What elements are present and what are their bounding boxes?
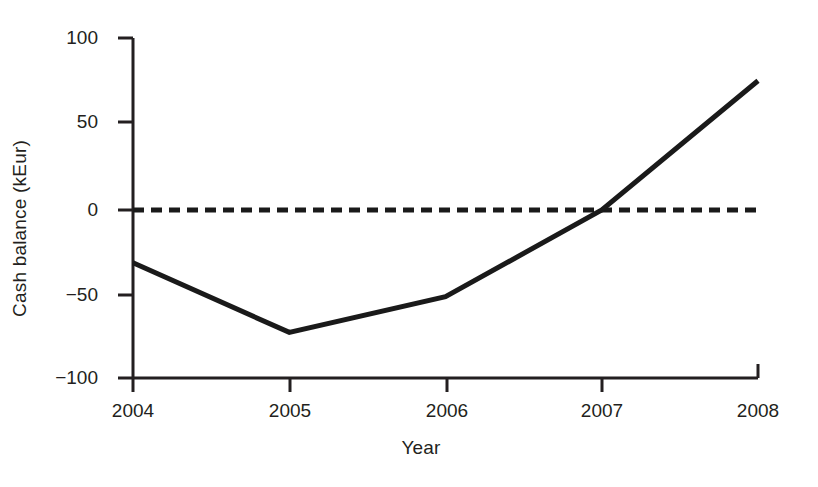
cash-balance-line <box>133 81 758 333</box>
y-axis-ticks <box>118 38 133 378</box>
plot-area <box>0 0 818 487</box>
chart-figure: Cash balance (kEur) 100 50 0 −50 −100 20… <box>0 0 818 487</box>
